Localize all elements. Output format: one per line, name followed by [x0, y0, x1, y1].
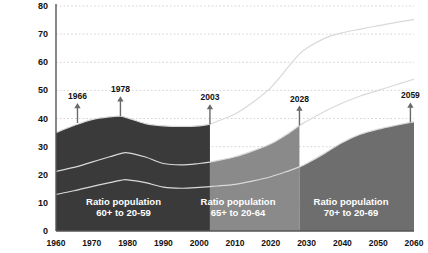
annotation-label-2028: 2028	[279, 94, 319, 104]
arrow-head-2028	[296, 106, 302, 111]
y-tick-50: 50	[22, 85, 48, 95]
x-tick-2050: 2050	[358, 238, 398, 248]
line-series-0	[56, 20, 414, 133]
arrow-head-2059	[407, 102, 413, 107]
panel-label-60plus-line1: Ratio population	[57, 196, 190, 207]
y-tick-20: 20	[22, 170, 48, 180]
arrow-head-2003	[207, 104, 213, 109]
x-tick-2060: 2060	[394, 238, 428, 248]
annotation-label-1966: 1966	[57, 91, 97, 101]
x-tick-1970: 1970	[72, 238, 112, 248]
panel-label-60plus-line2: 60+ to 20-59	[57, 207, 190, 218]
panel-label-70plus: Ratio population 70+ to 20-69	[286, 196, 416, 218]
arrow-head-1978	[117, 96, 123, 101]
x-tick-2040: 2040	[322, 238, 362, 248]
panel-label-65plus-line2: 65+ to 20-64	[190, 207, 286, 218]
y-tick-30: 30	[22, 142, 48, 152]
annotation-label-1978: 1978	[100, 84, 140, 94]
panel-label-60plus: Ratio population 60+ to 20-59	[57, 196, 190, 218]
x-tick-1960: 1960	[36, 238, 76, 248]
y-tick-60: 60	[22, 57, 48, 67]
panel-label-65plus: Ratio population 65+ to 20-64	[190, 196, 286, 218]
annotation-label-2003: 2003	[190, 92, 230, 102]
y-tick-70: 70	[22, 29, 48, 39]
y-tick-0: 0	[22, 226, 48, 236]
y-tick-80: 80	[22, 1, 48, 11]
x-tick-2000: 2000	[179, 238, 219, 248]
arrow-head-1966	[74, 103, 80, 108]
x-tick-2010: 2010	[215, 238, 255, 248]
panel-label-70plus-line1: Ratio population	[286, 196, 416, 207]
x-tick-1980: 1980	[108, 238, 148, 248]
y-tick-40: 40	[22, 114, 48, 124]
annotation-label-2059: 2059	[390, 90, 428, 100]
panel-label-70plus-line2: 70+ to 20-69	[286, 207, 416, 218]
x-tick-1990: 1990	[143, 238, 183, 248]
x-tick-2030: 2030	[287, 238, 327, 248]
panel-label-65plus-line1: Ratio population	[190, 196, 286, 207]
y-tick-10: 10	[22, 198, 48, 208]
x-tick-2020: 2020	[251, 238, 291, 248]
